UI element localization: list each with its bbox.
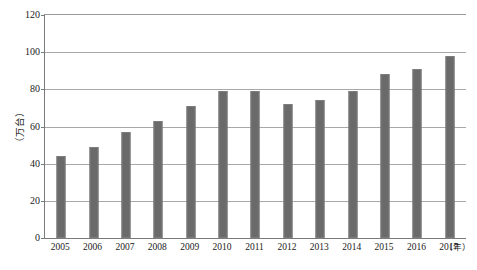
y-axis-tick-label: 0 [35,231,40,244]
y-axis-tick-label: 40 [30,157,40,170]
bar-slot [77,15,109,238]
bar[interactable] [186,106,195,238]
bar-slot [239,15,271,238]
y-axis-tick-label: 100 [25,45,40,58]
x-axis-tick-label: 2014 [342,241,361,254]
bar[interactable] [348,91,357,238]
bar[interactable] [381,74,390,238]
y-axis-tick-mark [41,238,45,239]
bar-slot [110,15,142,238]
bar-slot [175,15,207,238]
y-axis-title: （万台） [12,97,26,157]
y-axis-tick-label: 120 [25,8,40,21]
x-axis-tick-label: 2009 [180,241,199,254]
y-axis-tick-label: 80 [30,82,40,95]
bars-layer [45,15,466,238]
bar[interactable] [413,69,422,238]
bar[interactable] [89,147,98,238]
x-axis-tick-label: 2015 [375,241,394,254]
bar[interactable] [121,132,130,238]
plot-area: 020406080100120 [44,14,466,239]
x-axis-tick-label: 2013 [310,241,329,254]
bar-slot [207,15,239,238]
bar-slot [142,15,174,238]
bar-slot [434,15,466,238]
bar[interactable] [316,100,325,238]
x-axis-tick-label: 2010 [213,241,232,254]
x-axis-title: （年） [444,241,471,254]
bar-slot [45,15,77,238]
y-axis-tick-label: 60 [30,120,40,133]
x-axis-tick-label: 2006 [83,241,102,254]
bar[interactable] [283,104,292,238]
bar-slot [336,15,368,238]
x-axis-tick-label: 2005 [51,241,70,254]
bar-slot [272,15,304,238]
x-axis-tick-label: 2008 [148,241,167,254]
x-axis-tick-label: 2016 [407,241,426,254]
bar[interactable] [251,91,260,238]
x-axis-tick-label: 2012 [277,241,296,254]
x-axis-tick-label: 2007 [115,241,134,254]
x-axis-tick-labels: 2005200620072008200920102011201220132014… [44,241,466,261]
bar[interactable] [445,56,454,238]
bar[interactable] [219,91,228,238]
bar-slot [401,15,433,238]
bar-chart: （万台） 020406080100120 2005200620072008200… [0,0,477,270]
bar[interactable] [154,121,163,238]
bar-slot [369,15,401,238]
bar[interactable] [57,156,66,238]
x-axis-tick-label: 2011 [245,241,264,254]
bar-slot [304,15,336,238]
y-axis-tick-label: 20 [30,194,40,207]
